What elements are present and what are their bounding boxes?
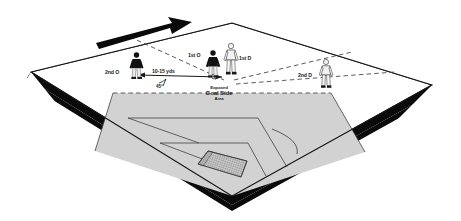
label-distance: 10-15 yds — [152, 69, 175, 74]
label-first-d: 1st D — [239, 56, 251, 61]
label-second-d: 2nd D — [298, 73, 312, 78]
soccer-field-diagram: 2nd O 1st O 1st D 2nd D 10-15 yds 45° Ex… — [0, 0, 461, 221]
label-exposed-goal-side-area: Exposed Goal Side Area — [187, 85, 251, 102]
area-label-line3: Area — [187, 97, 251, 102]
label-second-o: 2nd O — [105, 70, 119, 75]
label-first-o: 1st O — [188, 53, 200, 58]
field-illustration — [0, 0, 461, 221]
label-angle: 45° — [156, 85, 163, 90]
